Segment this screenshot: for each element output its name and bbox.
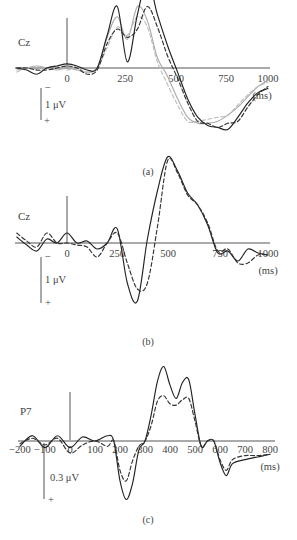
scale-pos-sign: + bbox=[45, 297, 51, 308]
tick-label: −100 bbox=[34, 444, 56, 455]
panel-c: P7 −200 −100 0 100 200 300 400 500 600 7… bbox=[9, 366, 280, 526]
tick-label: 400 bbox=[162, 444, 178, 455]
scale-bar-a: − 1 μV + bbox=[41, 82, 67, 126]
channel-label-b: Cz bbox=[18, 210, 30, 222]
erp-figure: Cz 0 250 500 750 1000 (ms) − 1 μV + (a) … bbox=[0, 0, 297, 540]
tick-label: 800 bbox=[262, 444, 278, 455]
scale-pos-sign: + bbox=[44, 115, 50, 126]
panel-caption-b: (b) bbox=[142, 336, 154, 348]
tick-label: 100 bbox=[87, 444, 103, 455]
trace-solid-black bbox=[17, 0, 268, 130]
panel-caption-c: (c) bbox=[142, 514, 153, 526]
scale-bar-b: − 1 μV + bbox=[41, 251, 67, 308]
panel-b: Cz 0 250 500 750 1000 (ms) − 1 μV + (b) bbox=[15, 156, 279, 348]
x-ticks-a: 0 250 500 750 1000 bbox=[64, 73, 278, 84]
x-unit-label-a: (ms) bbox=[252, 90, 272, 102]
tick-label: 700 bbox=[237, 444, 253, 455]
tick-label: 600 bbox=[212, 444, 228, 455]
scale-neg-sign: − bbox=[45, 251, 51, 262]
scale-label: 1 μV bbox=[45, 274, 67, 285]
x-ticks-c: −200 −100 0 100 200 300 400 500 600 700 … bbox=[9, 444, 278, 455]
panel-a: Cz 0 250 500 750 1000 (ms) − 1 μV + (a) bbox=[15, 0, 279, 178]
x-unit-label-b: (ms) bbox=[258, 265, 278, 277]
tick-label: 0 bbox=[64, 248, 69, 259]
scale-label: 0.3 μV bbox=[50, 472, 79, 483]
tick-label: 750 bbox=[212, 248, 228, 259]
scale-pos-sign: + bbox=[48, 494, 54, 505]
tick-label: 500 bbox=[160, 248, 176, 259]
tick-label: 750 bbox=[218, 73, 234, 84]
tick-label: 250 bbox=[117, 73, 133, 84]
trace-dashed bbox=[20, 396, 270, 481]
channel-label-c: P7 bbox=[20, 405, 32, 417]
tick-label: 0 bbox=[64, 73, 69, 84]
x-unit-label-c: (ms) bbox=[260, 461, 280, 473]
traces-a bbox=[17, 0, 268, 130]
scale-label: 1 μV bbox=[45, 99, 67, 110]
channel-label-a: Cz bbox=[18, 36, 30, 48]
panel-caption-a: (a) bbox=[142, 166, 153, 178]
scale-neg-sign: − bbox=[45, 82, 51, 93]
figure-caption-cutoff bbox=[0, 532, 297, 540]
